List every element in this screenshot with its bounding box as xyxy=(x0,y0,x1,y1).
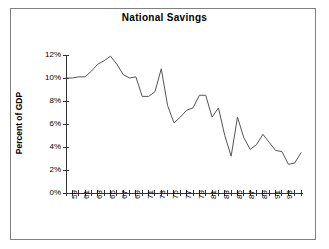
y-tick-label: 2% xyxy=(20,165,61,174)
x-tick-label: 63 xyxy=(95,190,104,199)
x-tick-label: 61 xyxy=(82,190,91,199)
y-axis xyxy=(63,55,69,194)
x-tick-label: 73 xyxy=(158,190,167,199)
x-tick-label: 65 xyxy=(108,190,117,199)
x-tick-label: 67 xyxy=(120,190,129,199)
y-tick-label: 0% xyxy=(20,188,61,197)
x-tick-label: 81 xyxy=(209,190,218,199)
y-tick-label: 10% xyxy=(20,73,61,82)
x-tick-label: 89 xyxy=(260,190,269,199)
x-tick-label: 83 xyxy=(222,190,231,199)
y-tick-label: 12% xyxy=(20,50,61,59)
x-tick-label: 75 xyxy=(171,190,180,199)
x-tick-label: 59 xyxy=(70,190,79,199)
x-tick-label: 79 xyxy=(197,190,206,199)
y-tick-label: 8% xyxy=(20,96,61,105)
x-tick-label: 71 xyxy=(146,190,155,199)
x-tick-label: 77 xyxy=(184,190,193,199)
x-tick-label: 69 xyxy=(133,190,142,199)
data-series xyxy=(66,56,301,164)
y-tick-label: 4% xyxy=(20,142,61,151)
x-tick-label: 93 xyxy=(285,190,294,199)
x-tick-label: 85 xyxy=(235,190,244,199)
y-tick-label: 6% xyxy=(20,119,61,128)
x-tick-label: 87 xyxy=(247,190,256,199)
x-tick-label: 91 xyxy=(273,190,282,199)
